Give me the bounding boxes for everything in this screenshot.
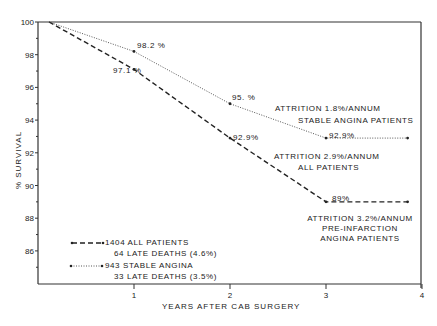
y-axis-label: % SURVIVAL <box>14 131 23 189</box>
annotation-preinfarction-line1: ATTRITION 3.2%/ANNUM <box>305 214 415 223</box>
point-label-stable-y3: 92.9% <box>329 131 355 140</box>
data-point-marker <box>406 200 409 203</box>
annotation-all-line2: ALL PATIENTS <box>298 163 359 172</box>
legend-stable-line2: 33 LATE DEATHS (3.5%) <box>114 272 217 281</box>
y-tick-label: 88 <box>25 214 34 223</box>
y-tick-label: 86 <box>25 247 34 256</box>
y-tick-label: 90 <box>25 182 34 191</box>
point-label-stable-y1: 98.2 % <box>137 41 166 50</box>
survival-chart: 10098969492908886 1234 % SURVIVAL <box>0 0 437 326</box>
x-tick-label: 1 <box>132 291 137 300</box>
data-point-marker <box>406 137 409 140</box>
legend-all-line2: 64 LATE DEATHS (4.6%) <box>114 249 217 258</box>
x-axis-tick-labels: 1234 <box>132 291 425 300</box>
annotation-stable-line2: STABLE ANGINA PATIENTS <box>298 116 413 125</box>
data-point-marker <box>325 200 328 203</box>
data-point-marker <box>325 137 328 140</box>
x-tick-label: 4 <box>420 291 425 300</box>
point-label-all-y1: 97.1 % <box>113 66 142 75</box>
legend-all-line1: 1404 ALL PATIENTS <box>105 238 189 247</box>
y-tick-label: 94 <box>25 116 34 125</box>
point-label-stable-y2: 95. % <box>232 93 255 102</box>
legend-stable-line1: 943 STABLE ANGINA <box>105 261 193 270</box>
y-tick-label: 98 <box>25 51 34 60</box>
annotation-preinfarction-line3: ANGINA PATIENTS <box>305 234 415 243</box>
annotation-stable-line1: ATTRITION 1.8%/ANNUM <box>275 104 381 113</box>
annotation-preinfarction-line2: PRE-INFARCTION <box>305 224 415 233</box>
point-label-all-y3: 89% <box>332 194 350 203</box>
legend-lines <box>70 242 105 268</box>
x-axis-label: YEARS AFTER CAB SURGERY <box>162 302 300 311</box>
data-point-marker <box>229 102 232 105</box>
data-point-marker <box>133 50 136 53</box>
y-tick-label: 92 <box>25 149 34 158</box>
y-tick-label: 100 <box>21 18 35 27</box>
annotation-all-line1: ATTRITION 2.9%/ANNUM <box>274 152 380 161</box>
x-tick-label: 2 <box>228 291 233 300</box>
x-axis-ticks <box>134 284 422 289</box>
point-label-all-y2: 92.9% <box>233 133 259 142</box>
y-tick-label: 96 <box>25 83 34 92</box>
data-point-marker <box>229 137 232 140</box>
x-tick-label: 3 <box>324 291 329 300</box>
